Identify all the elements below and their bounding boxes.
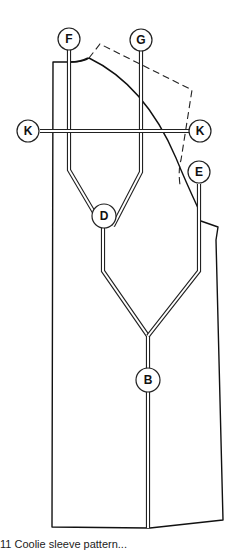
node-e-label: E — [195, 165, 203, 179]
node-b-label: B — [144, 373, 153, 387]
node-k-left-label: K — [24, 124, 33, 138]
node-b: B — [136, 368, 160, 392]
node-k-left: K — [17, 120, 39, 142]
node-k-right-label: K — [196, 124, 205, 138]
node-f: F — [58, 28, 80, 50]
node-e: E — [188, 161, 210, 183]
node-d: D — [92, 204, 116, 228]
node-g-label: G — [136, 33, 145, 47]
figure-caption: 11 Coolie sleeve pattern... — [0, 538, 238, 550]
route-lines — [40, 50, 199, 528]
node-k-right: K — [189, 120, 211, 142]
node-d-label: D — [100, 209, 109, 223]
node-f-label: F — [65, 32, 72, 46]
node-g: G — [130, 29, 152, 51]
